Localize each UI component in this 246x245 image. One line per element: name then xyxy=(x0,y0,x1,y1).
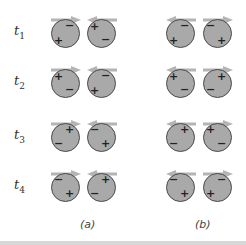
plus-charge-icon: + xyxy=(65,188,74,199)
plus-charge-icon: + xyxy=(101,138,110,149)
sphere: +− xyxy=(166,69,195,98)
plus-charge-icon: + xyxy=(206,188,215,199)
plus-charge-icon: + xyxy=(54,35,63,46)
plus-charge-icon: + xyxy=(180,188,189,199)
sphere: +− xyxy=(203,19,232,48)
sphere: +− xyxy=(203,123,232,152)
minus-charge-icon: − xyxy=(206,20,215,31)
arrow-left-icon xyxy=(87,163,117,171)
sphere: +− xyxy=(87,19,116,48)
plus-charge-icon: + xyxy=(169,35,178,46)
time-label-t1: t1 xyxy=(14,23,25,41)
minus-charge-icon: − xyxy=(180,84,189,95)
sphere: +− xyxy=(51,173,80,202)
sphere: +− xyxy=(203,69,232,98)
time-label-t3: t3 xyxy=(14,127,25,145)
sphere: +− xyxy=(51,69,80,98)
arrow-left-icon xyxy=(166,163,196,171)
minus-charge-icon: − xyxy=(101,34,110,45)
minus-charge-icon: − xyxy=(90,188,99,199)
plus-charge-icon: + xyxy=(90,21,99,32)
arrow-right-icon xyxy=(51,113,81,121)
arrow-right-icon xyxy=(203,113,233,121)
minus-charge-icon: − xyxy=(65,84,74,95)
arrow-right-icon xyxy=(51,9,81,17)
arrow-left-icon xyxy=(87,59,117,67)
minus-charge-icon: − xyxy=(169,174,178,185)
minus-charge-icon: − xyxy=(101,70,110,81)
minus-charge-icon: − xyxy=(180,20,189,31)
sphere: +− xyxy=(166,19,195,48)
arrow-right-icon xyxy=(203,59,233,67)
plus-charge-icon: + xyxy=(65,124,74,135)
minus-charge-icon: − xyxy=(217,174,226,185)
plus-charge-icon: + xyxy=(206,124,215,135)
plus-charge-icon: + xyxy=(169,71,178,82)
minus-charge-icon: − xyxy=(169,138,178,149)
sphere: +− xyxy=(51,19,80,48)
arrow-left-icon xyxy=(166,9,196,17)
caption-b: (b) xyxy=(195,218,211,231)
time-label-t2: t2 xyxy=(14,73,25,91)
plus-charge-icon: + xyxy=(217,35,226,46)
sphere: +− xyxy=(87,123,116,152)
plus-charge-icon: + xyxy=(180,124,189,135)
minus-charge-icon: − xyxy=(90,124,99,135)
minus-charge-icon: − xyxy=(65,20,74,31)
arrow-right-icon xyxy=(51,163,81,171)
plus-charge-icon: + xyxy=(101,174,110,185)
arrow-left-icon xyxy=(87,113,117,121)
sphere: +− xyxy=(87,173,116,202)
plus-charge-icon: + xyxy=(54,71,63,82)
plus-charge-icon: + xyxy=(90,85,99,96)
sphere: +− xyxy=(87,69,116,98)
caption-a: (a) xyxy=(80,218,95,231)
arrow-right-icon xyxy=(203,163,233,171)
arrow-left-icon xyxy=(166,113,196,121)
time-label-t4: t4 xyxy=(14,177,25,195)
minus-charge-icon: − xyxy=(54,138,63,149)
minus-charge-icon: − xyxy=(54,174,63,185)
plus-charge-icon: + xyxy=(217,71,226,82)
arrow-right-icon xyxy=(203,9,233,17)
minus-charge-icon: − xyxy=(217,138,226,149)
minus-charge-icon: − xyxy=(206,84,215,95)
arrow-left-icon xyxy=(166,59,196,67)
sphere: +− xyxy=(166,173,195,202)
sphere: +− xyxy=(51,123,80,152)
sphere: +− xyxy=(203,173,232,202)
arrow-left-icon xyxy=(87,9,117,17)
sphere: +− xyxy=(166,123,195,152)
bottom-divider xyxy=(0,241,246,245)
arrow-right-icon xyxy=(51,59,81,67)
